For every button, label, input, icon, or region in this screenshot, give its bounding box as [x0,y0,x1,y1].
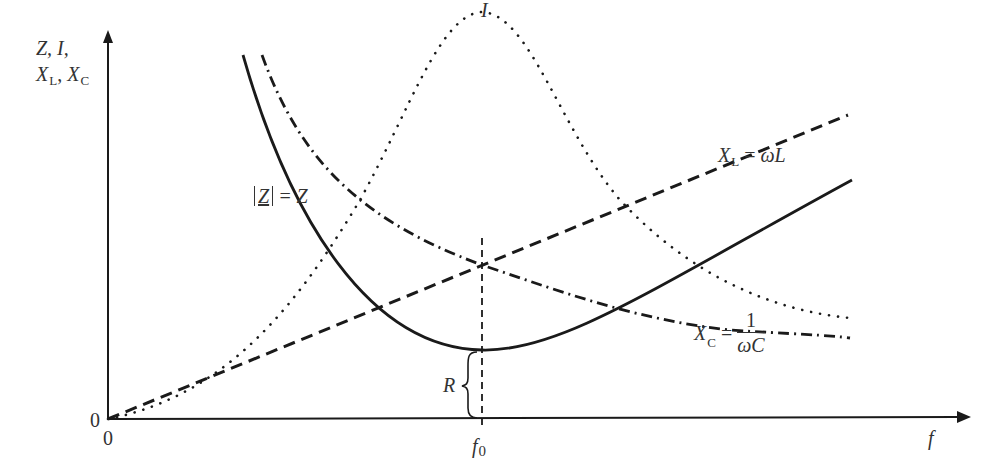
y-label-sep: , [57,63,67,85]
resistance-brace [462,352,477,418]
impedance-eq: = Z [273,185,308,207]
f0-sub: 0 [479,443,487,459]
resistance-label: R [443,375,455,395]
x-axis-arrow-icon [957,411,971,423]
xl-sub: L [49,73,57,88]
impedance-phasor: Z [258,185,269,207]
impedance-curve [243,55,852,350]
xc-fraction: 1ωC [737,310,764,355]
y-axis-label-line1: Z, I, [36,37,69,59]
xc-label-eq: = [716,322,737,344]
y-axis-label: Z, I, [36,38,69,58]
xc-fraction-denominator: ωC [737,333,764,355]
capacitive-reactance-label: XC = 1ωC [694,310,765,355]
impedance-label: Z = Z [254,186,308,206]
current-curve [108,12,850,419]
xl-label-var: X [718,144,730,166]
xc-label-var: X [694,322,706,344]
xl-label-sub: L [731,154,739,169]
y-axis-arrow-icon [103,30,113,43]
xl-label-expr: ωL [760,144,785,166]
diagram-canvas [0,0,989,469]
f0-var: f [472,435,478,457]
xc-fraction-numerator: 1 [737,310,764,333]
y-origin-label: 0 [90,410,100,430]
resonance-diagram: Z, I, XL, XC 0 0 f0 f I XL = ωL XC = 1ωC… [0,0,989,469]
xc-label-sub: C [707,335,716,350]
current-label: I [481,0,488,20]
xl-var: X [36,63,48,85]
xc-sub: C [80,73,89,88]
inductive-reactance-label: XL = ωL [718,145,786,168]
xl-label-eq: = [739,144,760,166]
x-origin-label: 0 [103,428,113,448]
y-axis-label-2: XL, XC [36,64,89,87]
x-axis [108,417,958,419]
x-axis-label: f [928,428,934,448]
impedance-abs: Z [254,186,273,206]
xc-var: X [67,63,79,85]
resonance-frequency-label: f0 [472,436,486,459]
